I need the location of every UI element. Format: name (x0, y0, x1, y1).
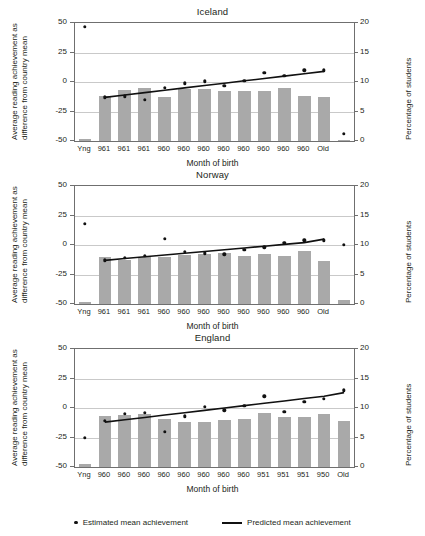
x-axis-tick-label: 960 (114, 470, 134, 479)
panel-title: Norway (0, 169, 425, 180)
y-axis-tick-label-right: 5 (360, 432, 382, 441)
predicted-mean-trend-line (75, 23, 354, 141)
y-axis-tick-left (70, 185, 74, 186)
y-axis-tick-left (70, 52, 74, 53)
panel-iceland: Iceland -50-250255005101520Average readi… (0, 0, 425, 163)
predicted-mean-trend-line (75, 349, 354, 467)
y-axis-tick-label-right: 15 (360, 210, 382, 219)
y-axis-tick-right (354, 466, 358, 467)
y-axis-tick-left (70, 303, 74, 304)
x-axis-tick-label: 960 (154, 144, 174, 153)
y-axis-tick-label-left: -50 (45, 298, 67, 307)
y-axis-tick-label-left: 50 (45, 180, 67, 189)
x-axis-tick-label: 960 (293, 144, 313, 153)
y-axis-tick-label-left: -50 (45, 135, 67, 144)
x-axis-tick-label: 960 (214, 307, 234, 316)
x-axis-tick-label: Yng (74, 144, 94, 153)
y-axis-tick-label-right: 15 (360, 47, 382, 56)
trend-line-icon (222, 522, 242, 524)
y-axis-tick-left (70, 466, 74, 467)
y-axis-tick-label-right: 5 (360, 106, 382, 115)
x-axis-tick-label: 960 (273, 144, 293, 153)
y-axis-tick-right (354, 407, 358, 408)
x-axis-tick-label: 961 (134, 144, 154, 153)
y-axis-tick-label-left: 0 (45, 239, 67, 248)
x-axis-tick-label: Old (313, 144, 333, 153)
y-axis-tick-right (354, 22, 358, 23)
y-axis-tick-right (354, 274, 358, 275)
y-axis-title-right: Percentage of students (404, 15, 414, 140)
y-axis-tick-right (354, 348, 358, 349)
x-axis-tick-label: 960 (233, 144, 253, 153)
y-axis-tick-label-left: -25 (45, 269, 67, 278)
y-axis-title-right: Percentage of students (404, 178, 414, 303)
x-axis-tick-label: 960 (233, 307, 253, 316)
y-axis-tick-label-left: 0 (45, 402, 67, 411)
y-axis-tick-left (70, 244, 74, 245)
y-axis-title-left-line1: Average reading achievement as (10, 178, 20, 303)
panel-england: England -50-250255005101520Average readi… (0, 326, 425, 489)
x-axis-tick-label: 960 (273, 307, 293, 316)
y-axis-tick-right (354, 81, 358, 82)
x-axis-tick-label: 961 (114, 144, 134, 153)
y-axis-tick-right (354, 437, 358, 438)
plot-area (74, 185, 355, 305)
x-axis-tick-label: 951 (293, 470, 313, 479)
panel-title: Iceland (0, 6, 425, 17)
y-axis-tick-right (354, 378, 358, 379)
y-axis-tick-label-left: 50 (45, 17, 67, 26)
y-axis-title-left-line2: difference from country mean (20, 15, 30, 140)
y-axis-tick-left (70, 348, 74, 349)
y-axis-tick-left (70, 378, 74, 379)
x-axis-tick-label: 960 (174, 144, 194, 153)
y-axis-tick-label-left: 25 (45, 210, 67, 219)
legend-label-predicted: Predicted mean achievement (247, 518, 351, 527)
y-axis-tick-label-left: 0 (45, 76, 67, 85)
y-axis-tick-label-right: 10 (360, 402, 382, 411)
panel-title: England (0, 332, 425, 343)
y-axis-title-left-line2: difference from country mean (20, 341, 30, 466)
x-axis-tick-label: 960 (154, 470, 174, 479)
y-axis-tick-left (70, 407, 74, 408)
y-axis-tick-left (70, 140, 74, 141)
y-axis-title-left-line2: difference from country mean (20, 178, 30, 303)
x-axis-tick-label: 960 (134, 470, 154, 479)
y-axis-tick-right (354, 303, 358, 304)
x-axis-tick-label: 961 (94, 144, 114, 153)
y-axis-tick-label-left: 25 (45, 47, 67, 56)
plot-area (74, 22, 355, 142)
y-axis-tick-label-right: 5 (360, 269, 382, 278)
x-axis-tick-label: 950 (313, 470, 333, 479)
y-axis-tick-label-left: -25 (45, 432, 67, 441)
x-axis-tick-label: 951 (253, 470, 273, 479)
y-axis-tick-left (70, 22, 74, 23)
x-axis-tick-label: Yng (74, 470, 94, 479)
legend: Estimated mean achievement Predicted mea… (0, 518, 425, 527)
y-axis-tick-label-right: 15 (360, 373, 382, 382)
y-axis-tick-label-left: -25 (45, 106, 67, 115)
y-axis-tick-label-right: 10 (360, 239, 382, 248)
x-axis-tick-label: 960 (214, 470, 234, 479)
x-axis-tick-label: 960 (253, 144, 273, 153)
legend-item-estimated: Estimated mean achievement (74, 518, 188, 527)
x-axis-tick-label: 960 (94, 470, 114, 479)
legend-item-predicted: Predicted mean achievement (222, 518, 351, 527)
figure-month-of-birth-reading-achievement: Iceland -50-250255005101520Average readi… (0, 0, 425, 536)
scatter-marker-icon (74, 521, 77, 524)
x-axis-tick-label: 960 (194, 470, 214, 479)
y-axis-tick-label-right: 10 (360, 76, 382, 85)
x-axis-tick-label: 960 (293, 307, 313, 316)
y-axis-tick-left (70, 81, 74, 82)
x-axis-title: Month of birth (0, 484, 425, 494)
predicted-mean-trend-line (75, 186, 354, 304)
x-axis-tick-label: 960 (253, 307, 273, 316)
y-axis-title-left: Average reading achievement asdifference… (10, 178, 30, 303)
y-axis-tick-label-right: 0 (360, 135, 382, 144)
y-axis-tick-label-right: 20 (360, 180, 382, 189)
y-axis-tick-right (354, 140, 358, 141)
x-axis-tick-label: Old (333, 470, 353, 479)
x-axis-tick-label: 960 (194, 307, 214, 316)
y-axis-tick-label-right: 20 (360, 17, 382, 26)
y-axis-tick-right (354, 185, 358, 186)
x-axis-tick-label: 961 (94, 307, 114, 316)
